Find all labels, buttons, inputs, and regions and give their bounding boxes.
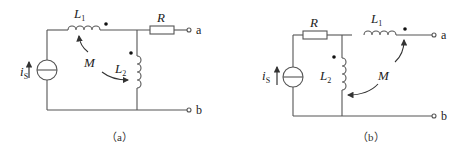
mutual-arrow-icon: [395, 40, 404, 62]
polarity-dot-L2: [332, 55, 336, 59]
L2-label: L2: [319, 68, 331, 85]
circuit-diagrams: iS L1 L2 R M a b （a） iS L1 L2 R M a b （b…: [0, 0, 470, 156]
polarity-dot-L1: [104, 22, 108, 26]
polarity-dot-L1: [403, 27, 407, 31]
terminal-a-label: a: [196, 23, 202, 37]
terminal-b-label: b: [196, 103, 202, 117]
polarity-dot-L2: [129, 51, 133, 55]
mutual-arrow-icon: [348, 84, 378, 95]
source-label: iS: [20, 64, 28, 81]
terminal-b-icon: [432, 114, 436, 118]
inductor-L2-icon: [342, 58, 346, 90]
resistor-R-icon: [303, 31, 327, 39]
source-label: iS: [262, 68, 270, 85]
mutual-arrow-icon: [79, 36, 88, 52]
L1-label: L1: [73, 6, 85, 23]
M-label: M: [83, 55, 96, 70]
resistor-R-icon: [150, 26, 174, 34]
terminal-a-icon: [187, 28, 191, 32]
inductor-L2-icon: [137, 56, 141, 88]
L2-label: L2: [114, 61, 126, 78]
terminal-a-icon: [432, 33, 436, 37]
terminal-b-icon: [187, 108, 191, 112]
inductor-L1-icon: [68, 26, 100, 30]
L1-label: L1: [370, 11, 382, 28]
R-label: R: [156, 10, 165, 25]
inductor-L1-icon: [364, 31, 396, 35]
R-label: R: [309, 15, 318, 30]
caption-b: （b）: [357, 131, 385, 143]
M-label: M: [377, 68, 390, 83]
terminal-b-label: b: [441, 109, 447, 123]
terminal-a-label: a: [441, 28, 447, 42]
circuit-b: [277, 31, 436, 118]
circuit-a: [29, 26, 191, 112]
caption-a: （a）: [106, 131, 133, 143]
